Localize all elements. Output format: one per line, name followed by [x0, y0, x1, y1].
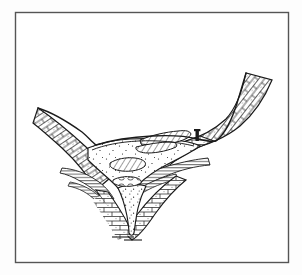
cobble-bed-body	[113, 177, 141, 187]
marker-post-body	[196, 130, 199, 141]
mid-gravel-lens	[110, 158, 146, 172]
figure-root: Geological cross-section of an infilled …	[0, 0, 302, 275]
geological-cross-section-figure	[0, 0, 302, 275]
marker-post-cap	[194, 129, 200, 131]
cobble-bed	[113, 177, 141, 187]
